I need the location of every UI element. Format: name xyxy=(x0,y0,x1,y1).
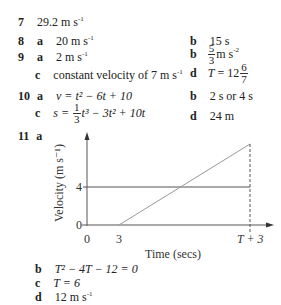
part-label: d xyxy=(35,290,42,304)
x-tick-label-3: 3 xyxy=(116,232,122,246)
x-axis-arrow-icon xyxy=(266,223,274,228)
part-label: b xyxy=(35,262,42,276)
velocity-time-graph: 4 0 0 3 T + 3 Time (secs) Velocity (m s⁻… xyxy=(0,0,281,305)
answer-11c: c T = 6 xyxy=(35,276,80,291)
y-tick-label-0: 0 xyxy=(76,218,82,232)
y-axis-arrow-icon xyxy=(85,132,90,140)
answer-11d: d 12 m s-1 xyxy=(35,290,93,305)
answer-text: T = 6 xyxy=(53,276,80,290)
x-tick-label-t3: T + 3 xyxy=(237,232,264,246)
answer-text: 12 m s xyxy=(55,290,87,304)
unit-exponent: -1 xyxy=(87,290,93,298)
part-label: c xyxy=(35,276,40,290)
accelerating-line xyxy=(119,144,250,225)
x-tick-label-0: 0 xyxy=(84,232,90,246)
answer-text: T² − 4T − 12 = 0 xyxy=(55,262,138,276)
answer-11b: b T² − 4T − 12 = 0 xyxy=(35,262,138,277)
y-tick-label-4: 4 xyxy=(76,180,82,194)
x-axis-label: Time (secs) xyxy=(145,247,201,261)
y-axis-label: Velocity (m s⁻¹) xyxy=(52,144,66,222)
